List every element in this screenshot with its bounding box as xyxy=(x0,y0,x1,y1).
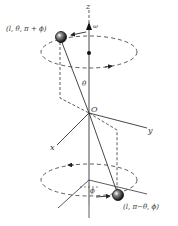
origin-label: O xyxy=(91,105,98,114)
omega-label: ω xyxy=(93,22,98,29)
y-axis-label: y xyxy=(147,126,153,135)
top-rod xyxy=(61,40,89,113)
top-velocity-arrow xyxy=(71,32,86,35)
bottom-rod xyxy=(89,113,117,192)
bottom-mass-sphere xyxy=(113,190,124,201)
top-orbit-center-dot xyxy=(87,51,91,55)
angular-velocity-arrow xyxy=(86,22,92,30)
bottom-velocity-arrow xyxy=(96,196,110,197)
top-mass-sphere xyxy=(56,32,67,43)
x-axis xyxy=(57,113,89,145)
phi-label: ϕ xyxy=(90,187,95,195)
theta-label: θ xyxy=(82,80,87,88)
top-point-label: (l, θ, π + ϕ) xyxy=(6,25,47,33)
y-axis xyxy=(89,113,147,128)
top-orbit-direction-arrow xyxy=(105,66,112,67)
z-axis-label: z xyxy=(85,2,91,11)
bottom-point-label: (l, π−θ, ϕ) xyxy=(123,203,159,211)
rotating-dumbbell-diagram: z ω θ (l, θ, π + ϕ) O y x ϕ (l, π−θ, ϕ) xyxy=(0,0,178,226)
x-axis-label: x xyxy=(50,143,55,152)
